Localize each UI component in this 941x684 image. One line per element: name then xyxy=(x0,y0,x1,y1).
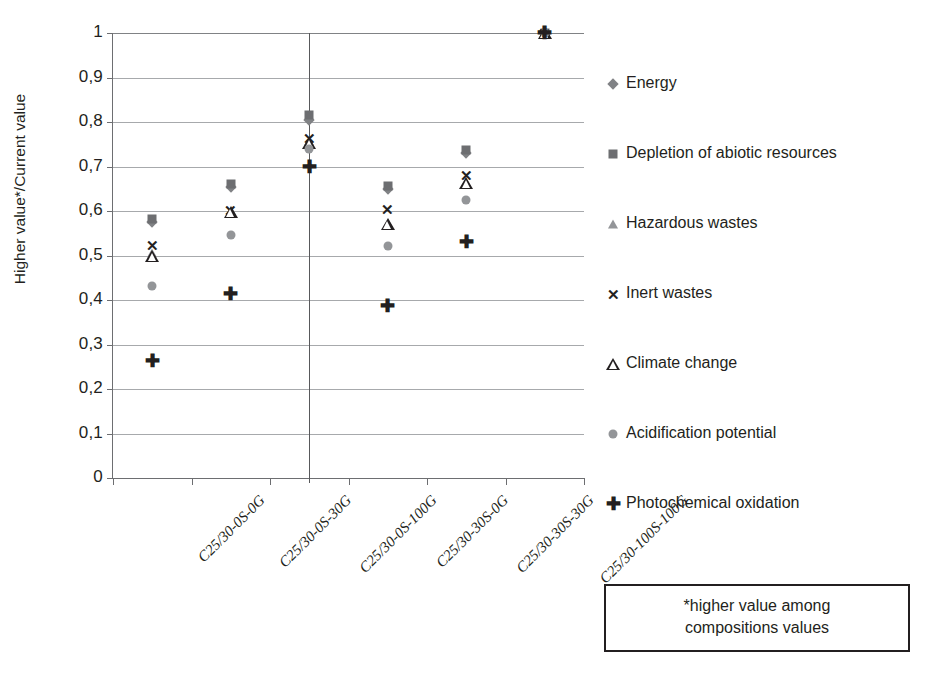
legend-item-energy[interactable]: Energy xyxy=(604,74,941,144)
data-point xyxy=(305,111,314,120)
legend-item-inert-wastes[interactable]: ✕Inert wastes xyxy=(604,284,941,354)
y-tick-mark xyxy=(107,256,113,257)
data-point: ✕ xyxy=(381,201,394,216)
y-axis-title: Higher value*/Current value xyxy=(11,0,29,389)
data-point xyxy=(305,144,314,153)
x-tick-mark xyxy=(584,478,585,485)
circle-icon xyxy=(604,424,626,442)
data-point: ✚ xyxy=(380,297,395,315)
data-point xyxy=(383,241,392,250)
footnote-box: *higher value among compositions values xyxy=(604,584,910,652)
x-tick-mark xyxy=(506,478,507,485)
y-tick-label: 0,1 xyxy=(0,423,103,443)
y-tick-mark xyxy=(107,167,113,168)
plot-area: ✕✕✕✕✕✕✚✚✚✚✚✚ xyxy=(112,33,583,478)
y-tick-label: 0 xyxy=(0,467,103,487)
data-point xyxy=(224,206,238,218)
data-point xyxy=(148,281,157,290)
footnote-line-1: *higher value among xyxy=(612,595,902,617)
y-tick-mark xyxy=(107,211,113,212)
data-point: ✚ xyxy=(223,285,238,303)
data-point xyxy=(462,195,471,204)
data-point xyxy=(381,218,395,230)
data-point xyxy=(383,181,392,190)
data-point xyxy=(145,250,159,262)
x-tick-mark xyxy=(427,478,428,485)
gridline xyxy=(113,256,584,257)
plus-icon: ✚ xyxy=(604,494,626,512)
gridline xyxy=(113,33,584,34)
data-point: ✚ xyxy=(537,24,552,42)
data-point xyxy=(226,231,235,240)
legend-item-depletion-of-abiotic-resources[interactable]: Depletion of abiotic resources xyxy=(604,144,941,214)
x-axis-label-1: C25/30-0S-30G xyxy=(276,492,355,571)
data-point: ✚ xyxy=(302,158,317,176)
y-tick-mark xyxy=(107,389,113,390)
x-tick-mark xyxy=(349,478,350,485)
x-axis-label-0: C25/30-0S-0G xyxy=(195,492,269,566)
chart-legend: EnergyDepletion of abiotic resourcesHaza… xyxy=(604,74,941,564)
footnote-line-2: compositions values xyxy=(612,617,902,639)
data-point xyxy=(462,146,471,155)
data-point: ✚ xyxy=(145,352,160,370)
square-icon xyxy=(604,144,626,162)
legend-item-photochemical-oxidation[interactable]: ✚Photochemical oxidation xyxy=(604,494,941,564)
legend-label: Energy xyxy=(626,74,677,92)
gridline xyxy=(113,167,584,168)
x-tick-mark xyxy=(270,478,271,485)
y-tick-mark xyxy=(107,345,113,346)
data-point xyxy=(459,177,473,189)
x-tick-mark xyxy=(113,478,114,485)
data-point xyxy=(226,180,235,189)
legend-label: Hazardous wastes xyxy=(626,214,758,232)
gridline xyxy=(113,389,584,390)
legend-label: Acidification potential xyxy=(626,424,776,442)
legend-item-acidification-potential[interactable]: Acidification potential xyxy=(604,424,941,494)
legend-label: Photochemical oxidation xyxy=(626,494,799,512)
triangle-filled-icon xyxy=(604,214,626,232)
y-tick-mark xyxy=(107,33,113,34)
x-axis-label-3: C25/30-30S-0G xyxy=(433,492,512,571)
x-axis-label-2: C25/30-0S-100G xyxy=(356,492,440,576)
legend-label: Depletion of abiotic resources xyxy=(626,144,837,162)
gridline xyxy=(113,122,584,123)
gridline xyxy=(113,434,584,435)
y-tick-mark xyxy=(107,78,113,79)
data-point: ✚ xyxy=(459,233,474,251)
cross-icon: ✕ xyxy=(604,284,626,302)
y-tick-mark xyxy=(107,434,113,435)
vertical-divider-line xyxy=(309,33,310,483)
legend-item-climate-change[interactable]: Climate change xyxy=(604,354,941,424)
gridline xyxy=(113,300,584,301)
gridline xyxy=(113,345,584,346)
x-axis-label-4: C25/30-30S-30G xyxy=(513,492,597,576)
x-tick-mark xyxy=(192,478,193,485)
legend-label: Inert wastes xyxy=(626,284,712,302)
data-point xyxy=(148,215,157,224)
legend-item-hazardous-wastes[interactable]: Hazardous wastes xyxy=(604,214,941,284)
triangle-open-icon xyxy=(604,354,626,372)
y-tick-mark xyxy=(107,300,113,301)
legend-label: Climate change xyxy=(626,354,737,372)
gridline xyxy=(113,78,584,79)
y-tick-mark xyxy=(107,122,113,123)
gridline xyxy=(113,211,584,212)
chart-figure: 10,90,80,70,60,50,40,30,20,10 ✕✕✕✕✕✕✚✚✚✚… xyxy=(0,0,600,684)
diamond-icon xyxy=(604,74,626,92)
